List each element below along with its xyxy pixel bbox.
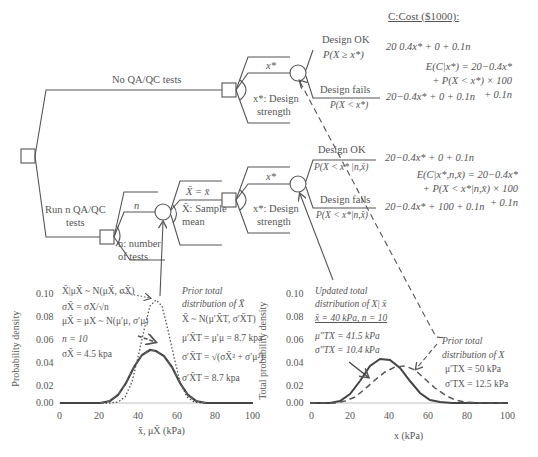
left-xtick-20: 20 [94, 410, 104, 422]
prior-x-label-2: distribution of X [442, 350, 504, 361]
n-branch-label: n [134, 200, 139, 212]
run-qaqc-label-1: Run n QA/QC [45, 204, 106, 216]
exp-cost-bottom-1: E(C|x*,n,x̄) = 20−0.4x* [417, 169, 518, 181]
left-ytick-0.02: 0.02 [36, 380, 54, 392]
exp-cost-top-3: + 0.1n [484, 89, 512, 101]
top-xstar-desc-2: strength [257, 106, 291, 118]
no-qaqc-label: No QA/QC tests [112, 74, 181, 86]
run-qaqc-label-2: tests [66, 217, 85, 229]
right-ytick-0.06: 0.06 [286, 334, 304, 346]
top-chance-node [290, 65, 306, 81]
bottom-xstar-desc-2: strength [257, 216, 291, 228]
n-desc-2: of tests [118, 251, 148, 263]
updated-dist-label-1: Updated total [315, 286, 368, 297]
right-xtick-20: 20 [345, 410, 355, 422]
bottom-xstar-desc-1: x*: Design [253, 203, 299, 215]
left-xtick-0: 0 [57, 410, 62, 422]
right-ytick-0.08: 0.08 [286, 311, 304, 323]
exp-cost-bottom-2: + P(X < x*|n,x̄) × 100 [423, 183, 518, 195]
prior-xbar-label-1: Prior total [182, 286, 222, 297]
xbar-desc-1: X̄: Sample [182, 203, 227, 215]
top-xstar-label: x* [266, 60, 276, 72]
right-xtick-40: 40 [384, 410, 394, 422]
right-ytick-0.10: 0.10 [286, 288, 304, 300]
prior-xbar-label-2: distribution of X̄ [182, 299, 244, 310]
cost-bottom-fail: 20−0.4x* + 100 + 0.1n [385, 201, 484, 213]
right-ytick-0.02: 0.02 [286, 380, 304, 392]
bottom-chance-node [290, 176, 306, 192]
root-decision-node [21, 149, 35, 163]
exp-cost-top-2: + P(X < x*) × 100 [432, 75, 512, 87]
top-design-fails-prob: P(X < x*) [330, 100, 368, 111]
top-design-ok: Design OK [322, 34, 370, 46]
prior-xbar-label-6: σ′X̄T = 8.7 kpa [182, 373, 240, 384]
left-annotation-4: n = 10 [62, 334, 87, 345]
prior-xbar-label-4: μ′X̄T = μ′μ = 8.7 kpa [182, 333, 262, 344]
bottom-design-ok: Design OK [318, 144, 366, 156]
left-ytick-0.10: 0.10 [36, 288, 54, 300]
right-xtick-60: 60 [423, 410, 433, 422]
cost-top-fail: 20−0.4x* + 0 + 0.1n [386, 91, 475, 103]
top-design-decision-node [222, 83, 236, 97]
left-ytick-0.08: 0.08 [36, 311, 54, 323]
top-design-fails: Design fails [320, 84, 370, 96]
left-xtick-60: 60 [172, 410, 182, 422]
bottom-design-ok-prob: P(X < x* |n,x̄) [314, 162, 368, 173]
xbar-branch-label: X̄ = x̄ [186, 186, 209, 198]
right-ytick-0.04: 0.04 [286, 357, 304, 369]
left-annotation-3: μX̄ = μX ~ N(μ′μ, σ′μ) [62, 316, 148, 327]
exp-cost-bottom-3: + 0.1n [490, 197, 518, 209]
bottom-design-fails-prob: P(X < x*|n,x̄) [316, 210, 368, 221]
sample-mean-chance-node [155, 204, 171, 220]
bottom-xstar-label: x* [266, 171, 276, 183]
right-xlabel: x (kPa) [394, 430, 423, 442]
left-ylabel: Probability density [10, 311, 22, 387]
right-xtick-0: 0 [309, 410, 314, 422]
top-design-ok-prob: P(X ≥ x*) [323, 49, 364, 61]
updated-dist-label-3: x̄ = 40 kPa, n = 10 [315, 313, 387, 324]
left-annotation-5: σX̄ = 4.5 kpa [62, 349, 112, 360]
left-ytick-0.04: 0.04 [36, 357, 54, 369]
prior-xbar-label-3: X̄ ~ N(μ′X̄T, σ′X̄T) [182, 314, 256, 325]
xbar-desc-2: mean [182, 216, 205, 228]
prior-xbar-label-5: σ′X̄T = √(σX̄² + σ′μ²) [182, 352, 263, 363]
right-ytick-0.00: 0.00 [286, 397, 304, 409]
exp-cost-top-1: E(C|x*) = 20−0.4x* [426, 61, 512, 73]
right-ylabel: Total probability density [257, 302, 269, 400]
top-xstar-desc-1: x*: Design [253, 93, 299, 105]
left-xtick-80: 80 [210, 410, 220, 422]
cost-header: C:Cost ($1000): [388, 10, 459, 23]
cost-bottom-ok: 20−0.4x* + 0 + 0.1n [385, 152, 474, 164]
updated-dist-label-2: distribution of X| x̄ [315, 299, 387, 310]
prior-x-label-3: μ′TX = 50 kPa [445, 364, 501, 375]
updated-dist-label-5: σ″TX = 10.4 kPa [315, 345, 380, 356]
cost-top-ok: 20 0.4x* + 0 + 0.1n [386, 41, 470, 53]
left-annotation-2: σX̄ = σX/√n [62, 302, 109, 313]
left-annotation-1: X̄|μX̄ ~ N(μX̄, σX̄) [62, 286, 134, 297]
right-xtick-80: 80 [462, 410, 472, 422]
prior-x-label-1: Prior total [442, 336, 482, 347]
left-xtick-100: 100 [245, 410, 260, 422]
left-xtick-40: 40 [133, 410, 143, 422]
left-ytick-0.00: 0.00 [36, 397, 54, 409]
left-ytick-0.06: 0.06 [36, 334, 54, 346]
updated-dist-label-4: μ″TX = 41.5 kPa [315, 331, 380, 342]
prior-x-label-4: σ′TX = 12.5 kPa [445, 379, 508, 390]
bottom-design-fails: Design fails [320, 194, 370, 206]
left-xlabel: x̄, μX̄ (kPa) [138, 425, 185, 437]
n-desc-1: n: number [118, 238, 161, 250]
n-decision-node [100, 230, 114, 244]
right-xtick-100: 100 [500, 410, 515, 422]
